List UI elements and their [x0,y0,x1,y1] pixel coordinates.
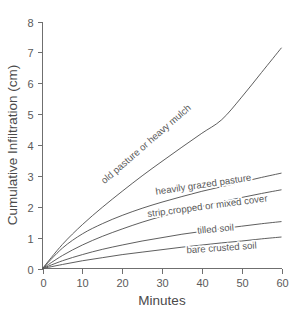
series-curves [43,48,282,269]
x-tick-label-30: 30 [156,277,168,289]
y-tick-label-1: 1 [27,233,33,245]
x-tick-label-group: 0102030405060 [40,277,288,289]
series-label-3: tilled soiltilled soil [197,222,235,236]
y-tick-label-5: 5 [27,109,33,121]
series-label-text-2: strip cropped or mixed cover [147,192,269,219]
x-tick-label-10: 10 [76,277,88,289]
y-axis: 012345678 [27,17,42,276]
y-tick-label-0: 0 [27,264,33,276]
x-tick-label-50: 50 [236,277,248,289]
series-label-group: old pasture or heavy mulchold pasture or… [99,102,269,255]
y-tick-label-2: 2 [27,202,33,214]
x-tick-label-20: 20 [116,277,128,289]
infiltration-chart: 012345678 0102030405060 old pasture or h… [0,0,299,312]
y-tick-label-7: 7 [27,47,33,59]
y-tick-label-3: 3 [27,171,33,183]
chart-canvas: 012345678 0102030405060 old pasture or h… [0,0,299,312]
x-tick-label-0: 0 [40,277,46,289]
series-label-text-3: tilled soil [197,222,235,236]
x-tick-label-60: 60 [276,277,288,289]
series-curve-0 [43,48,282,269]
series-label-2: strip cropped or mixed coverstrip croppe… [147,192,269,219]
x-axis: 0102030405060 [40,269,288,289]
series-label-1: heavily grazed pastureheavily grazed pas… [155,172,252,197]
y-axis-title: Cumulative Infiltration (cm) [5,65,20,226]
x-tick-group [44,269,283,274]
series-label-4: bare crusted soilbare crusted soil [186,239,257,255]
series-label-text-1: heavily grazed pasture [155,172,252,197]
y-tick-label-6: 6 [27,78,33,90]
y-tick-label-group: 012345678 [27,17,33,276]
x-tick-label-40: 40 [196,277,208,289]
y-tick-label-4: 4 [27,140,33,152]
series-label-text-4: bare crusted soil [186,239,257,255]
y-tick-group [38,23,43,270]
x-axis-title: Minutes [138,293,186,308]
y-tick-label-8: 8 [27,17,33,29]
